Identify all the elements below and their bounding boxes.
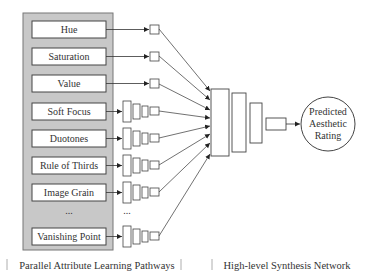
- attribute-rule-of-thirds: Rule of Thirds: [32, 157, 106, 174]
- output-label-line3: Rating: [315, 130, 342, 141]
- attribute-image-grain: Image Grain: [32, 184, 106, 201]
- caption-right: High-level Synthesis Network: [223, 260, 351, 271]
- attribute-label: Saturation: [48, 51, 89, 62]
- attribute-label: Image Grain: [44, 187, 94, 198]
- attribute-hue: Hue: [32, 21, 106, 38]
- attribute-vanishing-point: Vanishing Point: [32, 228, 106, 245]
- output-label-line2: Aesthetic: [309, 118, 347, 129]
- predicted-rating-node: Predicted Aesthetic Rating: [301, 97, 355, 151]
- attribute-soft-focus: Soft Focus: [32, 103, 106, 120]
- attribute-label: Rule of Thirds: [40, 160, 98, 171]
- attribute-label: Value: [58, 78, 81, 89]
- aesthetic-network-diagram: Hue Saturation Value Soft Focus Duotones…: [0, 0, 372, 279]
- simple-pathways: [106, 25, 159, 88]
- attribute-duotones: Duotones: [32, 130, 106, 147]
- caption-bar: Parallel Attribute Learning Pathways Hig…: [7, 259, 351, 271]
- attribute-saturation: Saturation: [32, 48, 106, 65]
- pathway-ellipsis: ...: [123, 205, 131, 216]
- attribute-label: Vanishing Point: [37, 231, 101, 242]
- synthesis-network: [211, 89, 286, 156]
- deep-pathways: [106, 101, 159, 247]
- caption-left: Parallel Attribute Learning Pathways: [19, 260, 174, 271]
- attribute-ellipsis: ...: [65, 205, 73, 216]
- attribute-label: Duotones: [50, 133, 88, 144]
- attribute-value: Value: [32, 75, 106, 92]
- synthesis-connections: [159, 29, 210, 236]
- attribute-label: Hue: [61, 24, 78, 35]
- output-label-line1: Predicted: [309, 106, 347, 117]
- attribute-label: Soft Focus: [47, 106, 90, 117]
